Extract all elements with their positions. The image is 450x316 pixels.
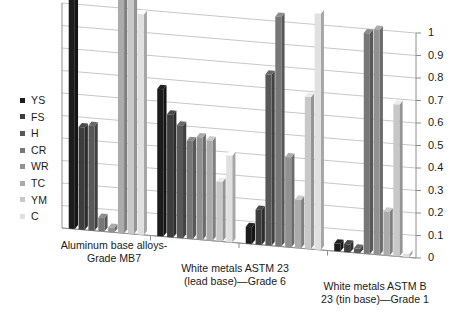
bar-c-group-2[interactable] bbox=[226, 151, 235, 242]
y-axis-tick-label: 1 bbox=[428, 26, 434, 38]
gridline bbox=[62, 48, 416, 78]
category-label-3: White metals ASTM B23 (tin base)—Grade 1 bbox=[300, 280, 450, 306]
bar-side-face bbox=[380, 26, 383, 255]
bar-side-face bbox=[272, 71, 275, 246]
category-label-2: White metals ASTM 23(lead base)—Grade 6 bbox=[154, 262, 316, 288]
bar-front-face bbox=[364, 33, 370, 254]
category-label-line1: White metals ASTM 23 bbox=[154, 262, 316, 275]
bar-cr-group-4[interactable] bbox=[364, 29, 373, 254]
bar-side-face bbox=[321, 10, 324, 250]
gridline bbox=[62, 161, 416, 191]
bar-front-face bbox=[197, 137, 203, 240]
bar-front-face bbox=[393, 104, 399, 256]
bar-side-face bbox=[95, 122, 98, 231]
bar-side-face bbox=[311, 93, 314, 249]
bar-side-face bbox=[390, 208, 393, 256]
bar-fs-group-3[interactable] bbox=[256, 206, 265, 245]
bar-ys-group-4[interactable] bbox=[334, 239, 343, 251]
bar-side-face bbox=[183, 122, 186, 239]
bar-side-face bbox=[203, 134, 206, 240]
bar-side-face bbox=[85, 124, 88, 230]
bar-front-face bbox=[305, 97, 311, 249]
bar-front-face bbox=[344, 244, 350, 252]
bar-front-face bbox=[79, 127, 85, 230]
gridline bbox=[62, 26, 416, 56]
gridline bbox=[62, 93, 416, 123]
bar-ym-group-3[interactable] bbox=[305, 93, 314, 249]
bar-ym-group-4[interactable] bbox=[393, 100, 402, 256]
bar-front-face bbox=[374, 29, 380, 255]
bar-front-face bbox=[354, 248, 360, 253]
bar-front-face bbox=[69, 0, 75, 229]
bar-front-face bbox=[128, 0, 134, 234]
bar-front-face bbox=[177, 125, 183, 238]
bar-front-face bbox=[295, 199, 301, 248]
bar-front-face bbox=[167, 114, 173, 237]
bar-front-face bbox=[275, 17, 281, 247]
y-axis-tick-label: 0.7 bbox=[428, 94, 443, 106]
bar-front-face bbox=[265, 74, 271, 246]
bar-side-face bbox=[222, 178, 225, 242]
bar-tc-group-2[interactable] bbox=[206, 136, 215, 241]
bar-ym-group-2[interactable] bbox=[216, 177, 225, 241]
gridline bbox=[62, 3, 416, 33]
bar-tc-group-1[interactable] bbox=[118, 0, 127, 233]
bar-front-face bbox=[216, 181, 222, 241]
bar-ys-group-3[interactable] bbox=[246, 223, 255, 244]
bar-wr-group-2[interactable] bbox=[197, 133, 206, 240]
bar-fs-group-2[interactable] bbox=[167, 110, 176, 237]
bar-wr-group-3[interactable] bbox=[285, 153, 294, 248]
bar-side-face bbox=[399, 101, 402, 257]
bar-c-group-1[interactable] bbox=[138, 10, 147, 235]
bar-front-face bbox=[98, 218, 104, 232]
bar-side-face bbox=[370, 30, 373, 255]
bar-front-face bbox=[157, 89, 163, 237]
gridline bbox=[62, 183, 416, 213]
bar-front-face bbox=[138, 14, 144, 235]
bar-c-group-4[interactable] bbox=[403, 250, 412, 258]
category-label-line2: (lead base)—Grade 6 bbox=[154, 275, 316, 288]
bar-front-face bbox=[88, 126, 94, 231]
bar-fs-group-4[interactable] bbox=[344, 240, 353, 252]
bar-front-face bbox=[383, 211, 389, 255]
bar-front-face bbox=[315, 13, 321, 250]
bar-h-group-1[interactable] bbox=[88, 122, 97, 231]
bar-wr-group-4[interactable] bbox=[374, 25, 383, 255]
bar-h-group-2[interactable] bbox=[177, 121, 186, 238]
gridline bbox=[62, 116, 416, 146]
bar-side-face bbox=[134, 0, 137, 234]
bar-cr-group-2[interactable] bbox=[187, 137, 196, 239]
y-axis-tick-label: 0.9 bbox=[428, 49, 443, 61]
bar-tc-group-3[interactable] bbox=[295, 195, 304, 248]
bar-side-face bbox=[173, 111, 176, 238]
bar-c-group-3[interactable] bbox=[315, 9, 324, 250]
bar-cr-group-1[interactable] bbox=[98, 214, 107, 232]
y-axis-tick-label: 0.4 bbox=[428, 161, 443, 173]
bar-side-face bbox=[213, 137, 216, 241]
y-axis-tick-label: 0.8 bbox=[428, 71, 443, 83]
bar-cr-group-3[interactable] bbox=[275, 13, 284, 247]
bar-h-group-4[interactable] bbox=[354, 244, 363, 253]
bar-front-face bbox=[118, 0, 124, 233]
y-axis-tick-label: 0.6 bbox=[428, 116, 443, 128]
bar-side-face bbox=[144, 10, 147, 235]
bar-fs-group-1[interactable] bbox=[79, 123, 88, 230]
category-label-line1: White metals ASTM B bbox=[300, 280, 450, 293]
bar-wr-group-1[interactable] bbox=[108, 223, 117, 232]
bar-ys-group-2[interactable] bbox=[157, 85, 166, 237]
category-label-line2: 23 (tin base)—Grade 1 bbox=[300, 293, 450, 306]
chart-container: YSFSHCRWRTCYMC 10.90.80.70.60.50.40.30.2… bbox=[0, 0, 450, 316]
bar-front-face bbox=[334, 243, 340, 251]
bar-tc-group-4[interactable] bbox=[383, 207, 392, 255]
bar-h-group-3[interactable] bbox=[265, 70, 274, 246]
bar-side-face bbox=[281, 13, 284, 247]
bar-side-face bbox=[75, 0, 78, 229]
bar-side-face bbox=[301, 196, 304, 248]
bar-ys-group-1[interactable] bbox=[69, 0, 78, 229]
bar-ym-group-1[interactable] bbox=[128, 0, 137, 234]
bar-front-face bbox=[187, 141, 193, 239]
y-axis-tick-label: 0.3 bbox=[428, 184, 443, 196]
bar-front-face bbox=[403, 254, 409, 258]
bar-side-face bbox=[193, 137, 196, 239]
category-label-line1: Aluminum base alloys- bbox=[38, 239, 190, 252]
